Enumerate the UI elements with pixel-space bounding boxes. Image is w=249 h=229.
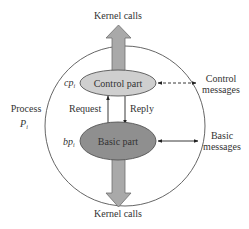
basic-messages-line1: Basic (211, 130, 234, 141)
basic-messages-line2: messages (203, 141, 241, 152)
process-label-line1: Process (11, 103, 42, 114)
process-structure-diagram: Control part Basic part Kernel calls Ker… (0, 0, 249, 229)
cp-symbol: cpi (64, 77, 75, 89)
request-label: Request (69, 103, 101, 114)
process-label-symbol: Pi (19, 118, 28, 130)
reply-label: Reply (130, 103, 154, 114)
kernel-calls-bottom-label: Kernel calls (94, 208, 142, 219)
bp-symbol: bpi (63, 136, 75, 148)
control-messages-line1: Control (206, 73, 237, 84)
basic-part-label: Basic part (98, 136, 138, 147)
kernel-calls-top-label: Kernel calls (94, 10, 142, 21)
control-part-label: Control part (94, 78, 143, 89)
control-messages-line2: messages (202, 84, 240, 95)
